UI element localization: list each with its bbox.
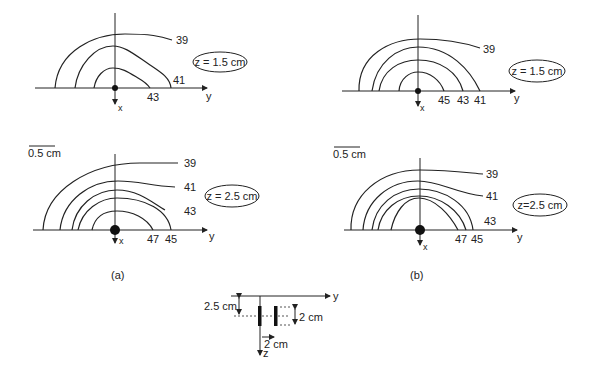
- isotherm-figure: 39 41 43 y x z = 1.5 cm 39 45 43 41 y x …: [0, 0, 597, 376]
- y-axis-label: y: [209, 230, 215, 242]
- y-axis-label: y: [206, 90, 212, 102]
- label-45: 45: [438, 94, 450, 106]
- isotherm-45: [399, 72, 444, 91]
- isotherm-41: [75, 46, 171, 88]
- isotherm-39: [43, 163, 178, 230]
- label-47: 47: [147, 233, 159, 245]
- isotherm-39: [351, 170, 483, 230]
- label-39: 39: [176, 34, 188, 46]
- x-axis-label: x: [420, 103, 425, 113]
- depth-label: 2.5 cm: [204, 300, 237, 312]
- y-axis-label: y: [517, 231, 523, 243]
- z-label: z = 1.5 cm: [194, 56, 245, 68]
- isotherm-41: [363, 181, 483, 230]
- z-label: z=2.5 cm: [518, 199, 563, 211]
- scale-label: 0.5 cm: [28, 147, 61, 159]
- source-point: [415, 88, 421, 94]
- source-rod-1: [258, 306, 262, 326]
- label-45: 45: [471, 233, 483, 245]
- label-47: 47: [455, 233, 467, 245]
- z-label: z = 2.5 cm: [206, 190, 257, 202]
- source-point: [110, 225, 120, 235]
- y-axis-label: y: [514, 92, 520, 104]
- panel-a-bottom: 0.5 cm 39 41 43 47 45 y x z = 2.5 cm (a): [28, 146, 259, 281]
- label-43: 43: [147, 91, 159, 103]
- z-label: z = 1.5 cm: [511, 65, 562, 77]
- isotherm-47: [391, 198, 458, 230]
- source-point: [415, 225, 425, 235]
- isotherm-43: [94, 68, 150, 88]
- isotherm-41: [372, 47, 480, 91]
- isotherm-45: [78, 198, 171, 230]
- label-43: 43: [457, 94, 469, 106]
- geometry-sketch: y z 2.5 cm 2 cm 2 cm: [204, 290, 339, 359]
- panel-b-bottom: 0.5 cm 39 41 43 47 45 y x z=2.5 cm (b): [333, 147, 567, 281]
- label-41: 41: [184, 181, 196, 193]
- isotherm-47: [92, 211, 153, 230]
- isotherm-45: [378, 196, 466, 230]
- source-point: [112, 85, 118, 91]
- y-axis-label: y: [333, 290, 339, 302]
- isotherm-43: [379, 60, 463, 91]
- x-axis-label: x: [119, 236, 124, 246]
- label-39: 39: [184, 157, 196, 169]
- x-axis-label: x: [423, 242, 428, 252]
- label-41: 41: [474, 94, 486, 106]
- isotherm-39: [55, 34, 172, 88]
- label-41: 41: [486, 190, 498, 202]
- x-axis-label: x: [118, 103, 123, 113]
- length-label: 2 cm: [299, 311, 323, 323]
- isotherm-43: [72, 190, 165, 230]
- label-43: 43: [484, 215, 496, 227]
- label-41: 41: [173, 74, 185, 86]
- caption-a: (a): [111, 269, 124, 281]
- spacing-label: 2 cm: [264, 338, 288, 350]
- caption-b: (b): [410, 269, 423, 281]
- label-39: 39: [483, 43, 495, 55]
- label-39: 39: [486, 168, 498, 180]
- panel-a-top: 39 41 43 y x z = 1.5 cm: [35, 13, 247, 113]
- panel-b-top: 39 45 43 41 y x z = 1.5 cm: [342, 15, 565, 113]
- label-43: 43: [184, 205, 196, 217]
- source-rod-2: [274, 306, 278, 326]
- label-45: 45: [165, 233, 177, 245]
- scale-label: 0.5 cm: [333, 148, 366, 160]
